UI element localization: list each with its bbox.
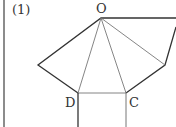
vertex-label-O: O: [96, 2, 107, 15]
pyramid-net-diagram: [0, 0, 176, 127]
fold-line-OD: [78, 18, 101, 93]
problem-number: (1): [12, 3, 30, 16]
vertex-label-C: C: [129, 96, 139, 109]
fold-line-OC: [101, 18, 126, 93]
outer-edge-left-top: [38, 18, 176, 93]
fold-line-right: [101, 18, 165, 65]
vertex-label-D: D: [65, 96, 75, 109]
outer-edge-right: [126, 27, 176, 93]
